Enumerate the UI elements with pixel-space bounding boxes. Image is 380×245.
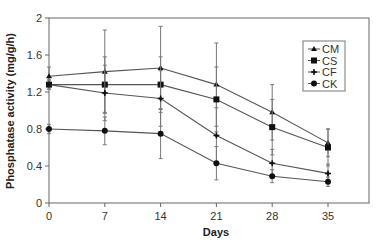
data-point xyxy=(213,96,219,102)
x-tick-label: 7 xyxy=(102,210,108,222)
series-line xyxy=(49,68,328,143)
y-tick-label: 1.6 xyxy=(27,49,42,61)
data-point xyxy=(325,179,331,185)
series-layer xyxy=(46,26,331,186)
legend-marker xyxy=(311,81,317,87)
legend-label: CK xyxy=(322,78,338,90)
y-tick-label: 0.4 xyxy=(27,160,42,172)
data-point xyxy=(46,126,52,132)
x-axis-title: Days xyxy=(203,226,229,238)
x-tick-label: 14 xyxy=(154,210,166,222)
legend-label: CM xyxy=(322,43,339,55)
legend: CMCSCFCK xyxy=(303,41,345,91)
y-tick-label: 0.8 xyxy=(27,123,42,135)
y-tick-label: 1.2 xyxy=(27,86,42,98)
legend-label: CS xyxy=(322,55,337,67)
data-point xyxy=(102,128,108,134)
x-axis: 0714212835 xyxy=(46,203,334,222)
series-line xyxy=(49,85,328,174)
data-point xyxy=(269,173,275,179)
series-ck xyxy=(46,109,331,187)
data-point xyxy=(325,145,331,151)
y-tick-label: 0 xyxy=(36,197,42,209)
x-tick-label: 21 xyxy=(210,210,222,222)
legend-label: CF xyxy=(322,66,337,78)
legend-marker xyxy=(311,58,317,64)
series-line xyxy=(49,129,328,182)
data-point xyxy=(158,131,164,137)
x-tick-label: 28 xyxy=(266,210,278,222)
x-tick-label: 0 xyxy=(46,210,52,222)
data-point xyxy=(213,160,219,166)
line-chart: 00.40.81.21.62 0714212835 Phosphatase ac… xyxy=(0,0,380,245)
series-cf xyxy=(46,65,331,182)
series-line xyxy=(49,85,328,148)
x-tick-label: 35 xyxy=(322,210,334,222)
y-tick-label: 2 xyxy=(36,12,42,24)
y-axis-title: Phosphatase activity (mg/g/h) xyxy=(4,33,16,189)
data-point xyxy=(269,124,275,130)
y-axis: 00.40.81.21.62 xyxy=(27,12,49,209)
